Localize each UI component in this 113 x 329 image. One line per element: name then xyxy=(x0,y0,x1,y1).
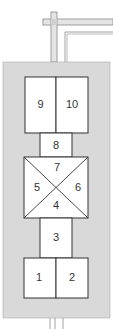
label-10: 10 xyxy=(66,98,78,110)
label-4: 4 xyxy=(53,199,59,211)
bottom-pipes xyxy=(50,318,63,329)
compartment-9: 9 xyxy=(25,77,56,133)
conduit-line-outer xyxy=(65,32,113,62)
label-7: 7 xyxy=(54,161,60,173)
compartment-8: 8 xyxy=(40,133,72,157)
label-5: 5 xyxy=(34,181,40,193)
pipe-junction xyxy=(51,19,57,25)
label-1: 1 xyxy=(36,271,42,283)
label-8: 8 xyxy=(53,139,59,151)
label-6: 6 xyxy=(75,181,81,193)
label-2: 2 xyxy=(69,271,75,283)
conduit-line-inner xyxy=(67,34,113,62)
compartment-1: 1 xyxy=(24,258,56,298)
top-pipes xyxy=(43,12,113,62)
label-3: 3 xyxy=(53,231,59,243)
compartment-2: 2 xyxy=(56,258,88,298)
floor-plan-diagram: 9 10 8 7 5 6 4 3 1 2 xyxy=(0,0,113,329)
label-9: 9 xyxy=(37,98,43,110)
compartment-3: 3 xyxy=(40,218,72,258)
compartment-10: 10 xyxy=(56,77,88,133)
compartment-cross: 7 5 6 4 xyxy=(24,157,88,218)
